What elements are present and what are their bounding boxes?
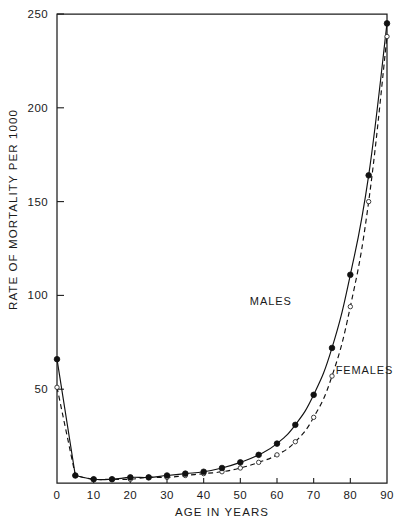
data-point-marker <box>73 473 79 479</box>
x-axis-tick-labels: 0102030405060708090 <box>54 489 394 501</box>
y-tick-label: 100 <box>28 289 48 301</box>
data-point-marker <box>128 475 134 481</box>
x-tick-label: 30 <box>160 489 174 501</box>
data-point-marker <box>384 21 390 27</box>
data-point-marker <box>54 356 60 362</box>
series-label-males: MALES <box>250 295 292 307</box>
series-label-females: FEMALES <box>336 364 394 376</box>
data-point-marker <box>201 469 207 475</box>
x-tick-label: 40 <box>197 489 211 501</box>
x-tick-label: 0 <box>54 489 61 501</box>
x-tick-label: 60 <box>270 489 284 501</box>
data-point-marker <box>219 465 225 471</box>
males-mortality-curve <box>57 23 387 479</box>
data-point-marker <box>256 452 262 458</box>
y-axis-tick-labels: 50100150200250 <box>28 8 48 395</box>
data-point-marker <box>238 460 244 466</box>
y-tick-label: 50 <box>34 383 48 395</box>
data-point-marker <box>366 199 370 203</box>
data-point-marker <box>256 460 260 464</box>
females-mortality-curve <box>57 37 387 480</box>
data-point-marker <box>293 422 299 428</box>
data-point-marker <box>55 385 59 389</box>
x-tick-label: 90 <box>380 489 394 501</box>
x-tick-label: 80 <box>344 489 358 501</box>
x-tick-label: 50 <box>234 489 248 501</box>
y-tick-label: 200 <box>28 102 48 114</box>
y-tick-label: 150 <box>28 196 48 208</box>
females-data-markers <box>55 34 389 481</box>
data-point-marker <box>275 453 279 457</box>
data-point-marker <box>348 272 354 278</box>
mortality-rate-chart: 50100150200250 0102030405060708090 RATE … <box>0 0 403 525</box>
data-point-marker <box>311 415 315 419</box>
data-point-marker <box>348 304 352 308</box>
data-point-marker <box>330 374 334 378</box>
data-point-marker <box>146 475 152 481</box>
males-data-markers <box>54 21 390 482</box>
x-tick-label: 20 <box>124 489 138 501</box>
data-point-marker <box>274 441 280 447</box>
y-tick-label: 250 <box>28 8 48 20</box>
data-point-marker <box>329 345 335 351</box>
data-point-marker <box>91 476 97 482</box>
axis-frame <box>57 14 387 483</box>
x-axis-title: AGE IN YEARS <box>175 506 269 518</box>
x-tick-label: 70 <box>307 489 321 501</box>
data-point-marker <box>109 476 115 482</box>
data-point-marker <box>311 392 317 398</box>
data-point-marker <box>164 473 170 479</box>
data-point-marker <box>385 34 389 38</box>
x-tick-label: 10 <box>87 489 101 501</box>
y-axis-title: RATE OF MORTALITY PER 1000 <box>7 109 19 310</box>
chart-canvas: 50100150200250 0102030405060708090 RATE … <box>0 0 403 525</box>
data-point-marker <box>293 440 297 444</box>
y-axis-ticks <box>57 14 64 389</box>
data-point-marker <box>366 173 372 179</box>
data-point-marker <box>183 471 189 477</box>
plot-frame <box>57 14 387 483</box>
data-point-marker <box>238 466 242 470</box>
